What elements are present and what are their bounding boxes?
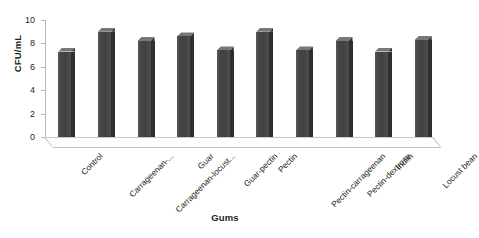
y-axis-title: CFU/mL [12, 19, 23, 89]
y-axis-line [45, 20, 46, 137]
x-axis-tick-label: Control [79, 151, 105, 177]
bar-front-face [375, 52, 388, 137]
x-axis-tick-label: Carrageenan-... [127, 151, 175, 199]
bar-front-face [138, 41, 151, 137]
bar-side-face [190, 36, 194, 137]
bar-front-face [177, 36, 190, 137]
y-axis-tick: 2 [41, 114, 45, 115]
y-axis-tick-label: 6 [30, 62, 35, 72]
y-axis-tick-label: 4 [30, 85, 35, 95]
bar-side-face [269, 32, 273, 137]
bar [375, 52, 388, 137]
plot-area: 0246810 ControlCarrageenan-...Carrageena… [45, 20, 441, 137]
y-axis-tick: 10 [41, 20, 45, 21]
x-axis-title: Gums [0, 212, 450, 223]
bar [256, 32, 269, 137]
y-axis-tick: 8 [41, 43, 45, 44]
bar-front-face [58, 52, 71, 137]
bar [415, 40, 428, 137]
bar-side-face [349, 41, 353, 137]
bar [138, 41, 151, 137]
y-axis-tick: 6 [41, 67, 45, 68]
bar [98, 32, 111, 137]
y-axis-tick-label: 10 [25, 15, 35, 25]
bar-front-face [415, 40, 428, 137]
bar [296, 50, 309, 137]
y-axis-tick-label: 8 [30, 38, 35, 48]
x-axis-tick-label: Guar-pectin [242, 151, 280, 189]
y-axis-tick-label: 2 [30, 109, 35, 119]
x-axis-tick-label: Pectin [276, 151, 299, 174]
bar-side-face [151, 41, 155, 137]
bar-front-face [336, 41, 349, 137]
bar-side-face [111, 32, 115, 137]
floor-front-edge [53, 147, 441, 148]
floor-back-edge [45, 137, 433, 138]
bar [177, 36, 190, 137]
chart-floor [45, 137, 441, 148]
x-axis-tick-label: Locust bean [440, 151, 479, 190]
floor-right-edge [433, 137, 442, 148]
y-axis-tick-label: 0 [30, 132, 35, 142]
bar-front-face [217, 50, 230, 137]
bar [336, 41, 349, 137]
bar-side-face [230, 50, 234, 137]
floor-left-edge [45, 137, 54, 148]
bar [58, 52, 71, 137]
bar-side-face [71, 52, 75, 137]
bar-side-face [388, 52, 392, 137]
bar-front-face [98, 32, 111, 137]
bar [217, 50, 230, 137]
bar-side-face [428, 40, 432, 137]
bar-front-face [256, 32, 269, 137]
bar-front-face [296, 50, 309, 137]
bar-side-face [309, 50, 313, 137]
y-axis-tick: 4 [41, 90, 45, 91]
